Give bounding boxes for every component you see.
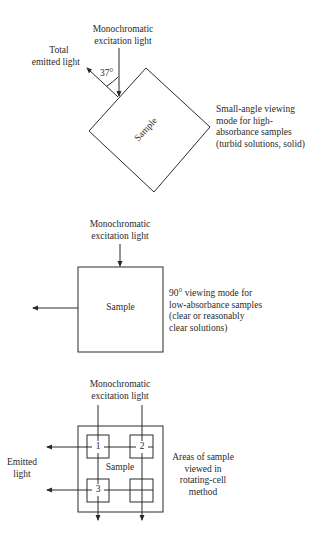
caption-line: method: [166, 487, 240, 499]
excitation-label-3: Monochromatic excitation light: [84, 379, 156, 402]
excitation-label-2: Monochromatic excitation light: [84, 219, 156, 242]
diagram-graphics: [0, 0, 329, 545]
caption-line: absorbance samples: [216, 127, 305, 139]
caption-panel-2: 90° viewing mode for low-absorbance samp…: [169, 288, 262, 334]
caption-line: (turbid solutions, solid): [216, 139, 305, 151]
excitation-label-line: excitation light: [84, 391, 156, 403]
emitted-label-1: Total emitted light: [30, 45, 80, 68]
sample-label-2: Sample: [78, 302, 163, 314]
emitted-label-3: Emitted light: [2, 457, 42, 480]
caption-line: Small-angle viewing: [216, 104, 305, 116]
sample-label-3: Sample: [100, 462, 140, 474]
angle-label: 37°: [100, 68, 113, 80]
area-label-3: 3: [92, 484, 104, 496]
emitted-label-line: light: [2, 469, 42, 481]
excitation-label-line: excitation light: [88, 36, 158, 48]
excitation-label-line: Monochromatic: [88, 24, 158, 36]
caption-panel-3: Areas of sample viewed in rotating-cell …: [166, 452, 240, 498]
excitation-label-1: Monochromatic excitation light: [88, 24, 158, 47]
caption-line: clear solutions): [169, 323, 262, 335]
emitted-label-line: Emitted: [2, 457, 42, 469]
caption-line: mode for high-: [216, 116, 305, 128]
caption-line: rotating-cell: [166, 475, 240, 487]
excitation-label-line: Monochromatic: [84, 219, 156, 231]
emitted-label-line: Total: [30, 45, 80, 57]
emitted-label-line: emitted light: [30, 57, 80, 69]
excitation-label-line: Monochromatic: [84, 379, 156, 391]
caption-panel-1: Small-angle viewing mode for high- absor…: [216, 104, 305, 150]
area-label-2: 2: [136, 441, 148, 453]
caption-line: Areas of sample: [166, 452, 240, 464]
excitation-label-line: excitation light: [84, 231, 156, 243]
caption-line: (clear or reasonably: [169, 311, 262, 323]
area-label-1: 1: [92, 441, 104, 453]
caption-line: 90° viewing mode for: [169, 288, 262, 300]
caption-line: low-absorbance samples: [169, 300, 262, 312]
caption-line: viewed in: [166, 464, 240, 476]
